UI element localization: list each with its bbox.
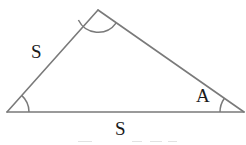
artifact-mark [78, 141, 92, 142]
artifact-mark [132, 141, 142, 142]
label-side-left: S [31, 42, 42, 61]
artifact-mark [150, 141, 162, 142]
triangle-edge-right-side [98, 10, 244, 112]
triangle-figure: S A S [0, 0, 246, 145]
label-side-base: S [115, 119, 126, 138]
left-angle-arc [22, 95, 29, 112]
right-angle-arc [220, 98, 224, 112]
triangle-edge-left-side [7, 10, 98, 112]
bottom-cropped-text-artifact [0, 139, 246, 145]
label-angle-right: A [196, 86, 210, 105]
artifact-mark [168, 141, 177, 142]
